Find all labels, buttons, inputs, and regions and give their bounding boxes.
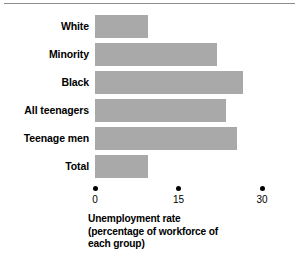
tick-dot-icon (93, 186, 98, 191)
x-axis-tick: 0 (82, 186, 108, 205)
bar-row: Black (0, 71, 299, 94)
tick-dot-icon (176, 186, 181, 191)
bar-black (95, 71, 243, 94)
bar-row: Minority (0, 43, 299, 66)
bar-row: Total (0, 155, 299, 178)
bar-category-label: Total (0, 155, 89, 178)
bar-minority (95, 43, 217, 66)
bar-row: Teenage men (0, 127, 299, 150)
x-axis-tick-label: 0 (82, 194, 108, 205)
x-axis-tick: 30 (249, 186, 275, 205)
tick-dot-icon (260, 186, 265, 191)
bar-category-label: Teenage men (0, 127, 89, 150)
x-axis-title-line-1: Unemployment rate (88, 213, 288, 226)
x-axis: 0 15 30 (0, 186, 299, 212)
chart-figure: White Minority Black All teenagers Teena… (0, 0, 299, 262)
x-axis-tick: 15 (166, 186, 192, 205)
x-axis-tick-label: 30 (249, 194, 275, 205)
bar-all-teenagers (95, 99, 226, 122)
x-axis-title: Unemployment rate (percentage of workfor… (88, 213, 288, 251)
bar-category-label: Minority (0, 43, 89, 66)
bar-category-label: All teenagers (0, 99, 89, 122)
bar-total (95, 155, 148, 178)
bar-white (95, 15, 148, 38)
bar-category-label: Black (0, 71, 89, 94)
x-axis-tick-label: 15 (166, 194, 192, 205)
bar-teenage-men (95, 127, 237, 150)
bar-category-label: White (0, 15, 89, 38)
x-axis-title-line-2: (percentage of workforce of (88, 226, 288, 239)
x-axis-title-line-3: each group) (88, 238, 288, 251)
bar-row: White (0, 15, 299, 38)
bar-row: All teenagers (0, 99, 299, 122)
